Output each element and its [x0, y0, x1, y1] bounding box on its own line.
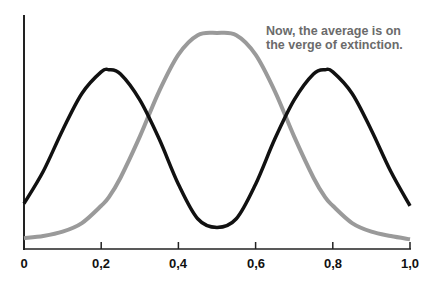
annotation-line-2: the verge of extinction.	[266, 38, 403, 52]
annotation-line-1: Now, the average is on	[266, 24, 403, 38]
x-tick-label: 0,8	[324, 256, 342, 271]
x-tick-label: 0,4	[169, 256, 187, 271]
x-tick-label: 0,2	[92, 256, 110, 271]
gray-curve	[24, 33, 410, 240]
x-tick-label: 0	[20, 256, 27, 271]
x-tick-label: 0,6	[247, 256, 265, 271]
x-tick-label: 1,0	[401, 256, 419, 271]
annotation: Now, the average is on the verge of exti…	[266, 24, 403, 52]
x-axis-ticks	[101, 242, 410, 249]
black-curve	[24, 69, 410, 227]
